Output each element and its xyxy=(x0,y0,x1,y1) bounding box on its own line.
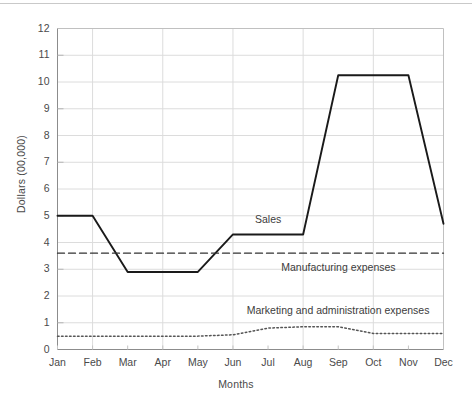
series-annotation: Sales xyxy=(255,213,281,225)
series-annotation: Manufacturing expenses xyxy=(281,261,395,273)
x-tick-label: Oct xyxy=(353,356,393,368)
x-tick-label: Nov xyxy=(388,356,428,368)
chart-canvas xyxy=(0,0,472,404)
y-tick-label: 7 xyxy=(28,155,50,167)
x-tick-label: Dec xyxy=(424,356,464,368)
x-axis-title: Months xyxy=(0,378,472,390)
x-tick-label: Apr xyxy=(143,356,183,368)
y-tick-label: 4 xyxy=(28,236,50,248)
y-tick-label: 1 xyxy=(28,316,50,328)
grid-layer xyxy=(58,29,444,350)
x-tick-label: Sep xyxy=(318,356,358,368)
y-tick-label: 8 xyxy=(28,129,50,141)
y-axis-title: Dollars (00,000) xyxy=(15,119,27,229)
y-tick-label: 12 xyxy=(28,22,50,34)
y-tick-label: 3 xyxy=(28,262,50,274)
y-tick-label: 2 xyxy=(28,289,50,301)
x-tick-label: Mar xyxy=(108,356,148,368)
x-tick-label: Feb xyxy=(73,356,113,368)
x-tick-label: Jun xyxy=(213,356,253,368)
series-layer xyxy=(58,75,444,336)
series-annotation: Marketing and administration expenses xyxy=(247,304,430,316)
y-tick-label: 6 xyxy=(28,182,50,194)
x-tick-label: May xyxy=(178,356,218,368)
y-tick-label: 10 xyxy=(28,75,50,87)
x-tick-label: Jan xyxy=(38,356,78,368)
y-tick-label: 0 xyxy=(28,343,50,355)
line-chart: Dollars (00,000) Months 0123456789101112… xyxy=(0,0,472,404)
y-tick-label: 11 xyxy=(28,48,50,60)
y-tick-label: 5 xyxy=(28,209,50,221)
y-tick-label: 9 xyxy=(28,102,50,114)
x-tick-label: Jul xyxy=(248,356,288,368)
x-tick-label: Aug xyxy=(283,356,323,368)
series-line-marketing-and-administration-expenses xyxy=(58,327,444,336)
